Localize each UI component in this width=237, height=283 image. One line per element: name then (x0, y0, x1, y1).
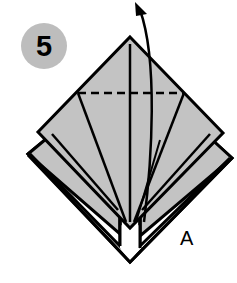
arrow-head-icon (135, 2, 147, 16)
step-badge: 5 (21, 23, 67, 69)
front-diamond (38, 37, 223, 228)
point-label-a: A (180, 227, 194, 249)
step-number: 5 (36, 30, 52, 62)
origami-diagram: 5 A (0, 0, 237, 283)
